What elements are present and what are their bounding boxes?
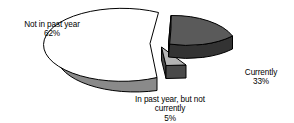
slice-label-in-past-year-text: In past year, but not currently (135, 95, 205, 114)
slice-label-not-in-past-year: Not in past year 62% (6, 10, 98, 48)
slice-label-currently-text: Currently (245, 68, 277, 77)
slice-label-not-in-past-year-text: Not in past year (24, 20, 80, 29)
slice-label-in-past-year-value: 5% (111, 114, 229, 123)
slice-label-currently: Currently 33% (230, 58, 292, 96)
pie-chart-figure: Not in past year 62% Currently 33% In pa… (0, 0, 294, 123)
slice-label-not-in-past-year-value: 62% (6, 29, 98, 39)
slice-label-currently-value: 33% (230, 77, 292, 87)
pie-slice-currently (169, 15, 233, 58)
slice-label-in-past-year-but-not-currently: In past year, but not currently 5% (111, 85, 229, 123)
pie-slice-in-past-year-front (166, 65, 186, 79)
